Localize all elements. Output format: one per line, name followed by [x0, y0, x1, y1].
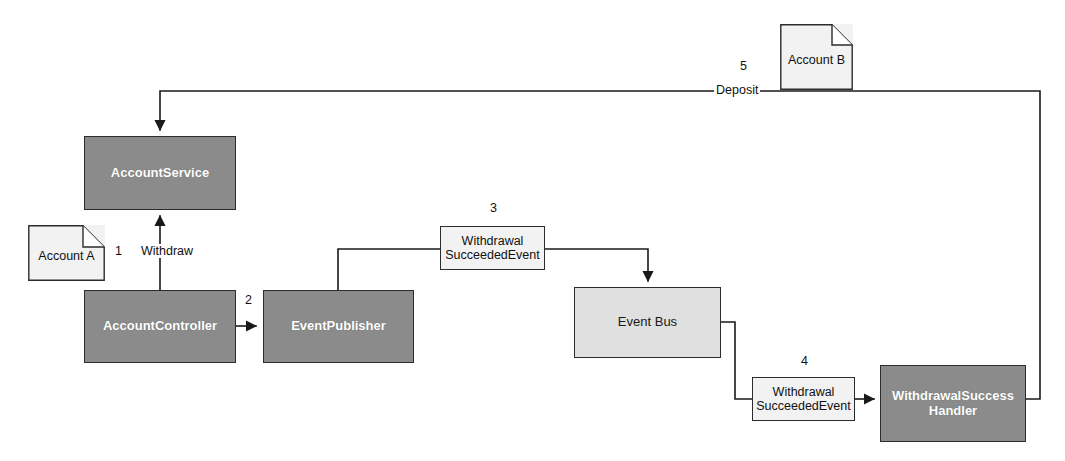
edge-label-step4-number: 4 [799, 354, 810, 368]
node-event-message-4-label: Withdrawal SucceededEvent [755, 385, 852, 414]
edge-message3-to-bus [545, 249, 648, 281]
node-withdrawal-success-handler-label: WithdrawalSuccess Handler [892, 389, 1014, 419]
edge-bus-to-message4 [721, 322, 752, 399]
edge-label-step5-number: 5 [738, 59, 749, 73]
edge-label-step3-number: 3 [488, 201, 499, 215]
node-event-bus-label: Event Bus [618, 315, 677, 330]
edge-label-step5-name: Deposit [714, 83, 760, 97]
node-event-message-3-label-line2: SucceededEvent [445, 248, 540, 262]
edge-event-to-message3 [338, 249, 440, 290]
node-account-service[interactable]: AccountService [84, 136, 236, 210]
note-account-b[interactable]: Account B [780, 24, 853, 90]
node-withdrawal-success-handler-label-line1: WithdrawalSuccess [892, 389, 1014, 404]
node-event-message-3-label-line1: Withdrawal [445, 234, 540, 248]
edge-label-step2-number: 2 [243, 293, 254, 307]
node-account-controller[interactable]: AccountController [84, 290, 236, 363]
node-event-message-4-label-line1: Withdrawal [756, 385, 851, 399]
node-event-message-4-label-line2: SucceededEvent [756, 399, 851, 413]
edge-label-step1-name: Withdraw [139, 244, 195, 258]
node-withdrawal-success-handler[interactable]: WithdrawalSuccess Handler [880, 365, 1026, 442]
node-event-publisher[interactable]: EventPublisher [263, 290, 414, 363]
node-event-message-3-label: Withdrawal SucceededEvent [444, 234, 541, 263]
node-event-message-3[interactable]: Withdrawal SucceededEvent [440, 226, 545, 270]
note-account-a-label: Account A [38, 243, 94, 263]
node-account-service-label: AccountService [111, 166, 209, 181]
diagram-canvas: AccountService AccountController EventPu… [0, 0, 1065, 461]
note-account-a[interactable]: Account A [28, 225, 105, 281]
node-withdrawal-success-handler-label-line2: Handler [892, 404, 1014, 419]
node-event-message-4[interactable]: Withdrawal SucceededEvent [752, 377, 855, 421]
node-event-bus[interactable]: Event Bus [574, 287, 721, 358]
node-event-publisher-label: EventPublisher [291, 319, 386, 334]
edge-label-step1-number: 1 [113, 244, 124, 258]
note-account-b-label: Account B [788, 47, 845, 67]
node-account-controller-label: AccountController [103, 319, 217, 334]
